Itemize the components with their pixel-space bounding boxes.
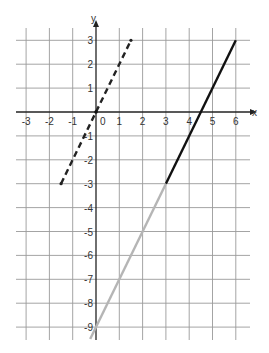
series-line <box>90 184 166 339</box>
y-tick-label: 3 <box>87 35 93 46</box>
x-tick-label: -1 <box>68 116 77 127</box>
endpoint-dot <box>59 182 62 185</box>
x-tick-label: 2 <box>140 116 146 127</box>
y-tick-label: -5 <box>84 227 93 238</box>
y-tick-label: 2 <box>87 59 93 70</box>
x-tick-label: 1 <box>117 116 123 127</box>
endpoint-dot <box>129 39 132 42</box>
y-tick-label: -4 <box>84 203 93 214</box>
y-tick-label: -3 <box>84 179 93 190</box>
x-tick-label: 3 <box>163 116 169 127</box>
x-axis-label: x <box>252 107 257 118</box>
x-tick-label: 6 <box>233 116 239 127</box>
x-tick-label: 0 <box>100 116 106 127</box>
y-axis-label: y <box>91 13 96 24</box>
y-tick-label: -9 <box>84 322 93 333</box>
y-tick-label: -1 <box>84 131 93 142</box>
y-tick-label: -7 <box>84 274 93 285</box>
y-tick-label: -2 <box>84 155 93 166</box>
x-tick-label: 4 <box>186 116 192 127</box>
tick-labels: -3-2-10123456321-1-2-3-4-5-6-7-8-9 <box>22 35 239 333</box>
y-tick-label: -8 <box>84 298 93 309</box>
grid-lines <box>16 28 250 340</box>
coordinate-plane: -3-2-10123456321-1-2-3-4-5-6-7-8-9 x y <box>0 0 269 353</box>
axes <box>16 20 257 340</box>
y-tick-label: 1 <box>87 83 93 94</box>
y-tick-label: -6 <box>84 250 93 261</box>
x-tick-label: 5 <box>210 116 216 127</box>
x-tick-label: -2 <box>45 116 54 127</box>
x-tick-label: -3 <box>22 116 31 127</box>
origin-dot <box>94 110 98 114</box>
